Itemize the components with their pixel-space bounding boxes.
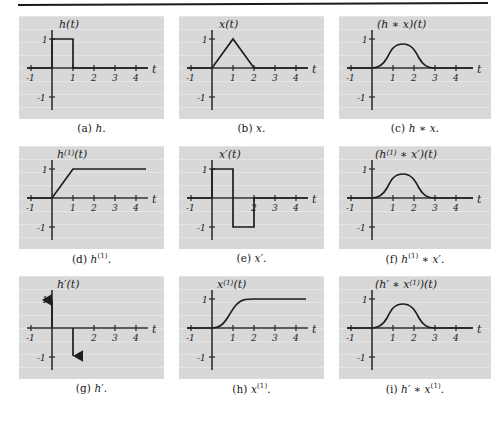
- xtick-label-1: 1: [390, 333, 396, 343]
- plot-h1-conv-xprime: -1 1 2 3 4 1 -1 t (h(1) ∗ x′)(t): [339, 146, 491, 249]
- xtick-label-4: 4: [132, 73, 139, 83]
- x-axis-label: t: [477, 193, 482, 206]
- xtick-label-4: 4: [132, 333, 139, 343]
- subfigure-h: -1 1 2 3 4 1 -1 t x(1)(t) (h) x(1).: [179, 276, 324, 395]
- xtick-label-2: 2: [250, 333, 257, 343]
- xtick-label-2: 2: [90, 203, 97, 213]
- signal-label-hprime: h′(t): [57, 278, 80, 291]
- xtick-label-3: 3: [432, 203, 438, 213]
- caption-a: (a) h.: [19, 122, 164, 134]
- xtick-label-2: 2: [90, 333, 97, 343]
- xtick-label-neg1: -1: [186, 333, 195, 343]
- ytick-label-1: 1: [202, 165, 208, 175]
- plot-hprime-conv-x1: -1 1 2 3 4 1 -1 t (h′ ∗ x(1))(t): [339, 276, 491, 379]
- x-axis-label: t: [312, 323, 317, 336]
- figure-page: -1 1 2 3 4 1 -1 t h(t) (a) h.: [0, 0, 502, 442]
- xtick-label-4: 4: [132, 203, 139, 213]
- plot-panel-x1: -1 1 2 3 4 1 -1 t x(1)(t): [179, 276, 324, 379]
- xtick-label-3: 3: [112, 73, 118, 83]
- plot-panel-h1-conv-xprime: -1 1 2 3 4 1 -1 t (h(1) ∗ x′)(t): [339, 146, 491, 249]
- ytick-label-neg1: -1: [357, 353, 366, 363]
- ytick-label-1: 1: [202, 35, 208, 45]
- xtick-label-3: 3: [432, 73, 438, 83]
- ytick-label-1: 1: [202, 295, 208, 305]
- top-horizontal-rule: [18, 2, 488, 6]
- x-axis-label: t: [152, 63, 157, 76]
- x-axis-label: t: [312, 193, 317, 206]
- signal-label-h-conv-x: (h ∗ x)(t): [377, 18, 426, 31]
- x-axis-label: t: [477, 63, 482, 76]
- ytick-label-neg1: -1: [37, 353, 46, 363]
- plot-h-conv-x: -1 1 2 3 4 1 -1 t (h ∗ x)(t): [339, 16, 491, 119]
- ytick-label-1: 1: [362, 35, 368, 45]
- ytick-label-neg1: -1: [37, 223, 46, 233]
- xtick-label-1: 1: [390, 73, 396, 83]
- plot-hprime: -1 2 3 4 1 -1 t h′(t): [19, 276, 164, 379]
- plot-panel-h: -1 1 2 3 4 1 -1 t h(t): [19, 16, 164, 119]
- plot-panel-x: -1 1 2 3 4 1 -1 t x(t): [179, 16, 324, 119]
- signal-curve-hprime-conv-x1: [347, 304, 473, 328]
- plot-panel-h1: -1 1 2 3 4 1 -1 t h(1)(t): [19, 146, 164, 249]
- x-axis-label: t: [312, 63, 317, 76]
- ytick-label-neg1: -1: [37, 93, 46, 103]
- xtick-label-neg1: -1: [26, 73, 35, 83]
- signal-label-h1-conv-xprime: (h(1) ∗ x′)(t): [375, 148, 437, 161]
- xtick-label-1: 1: [230, 73, 236, 83]
- xtick-label-1: 1: [70, 73, 76, 83]
- ytick-label-neg1: -1: [197, 353, 206, 363]
- ytick-label-1: 1: [362, 165, 368, 175]
- plot-panel-hprime-conv-x1: -1 1 2 3 4 1 -1 t (h′ ∗ x(1))(t): [339, 276, 491, 379]
- subfigure-g: -1 2 3 4 1 -1 t h′(t) (g) h′.: [19, 276, 164, 394]
- xtick-label-4: 4: [292, 73, 299, 83]
- xtick-label-2: 2: [410, 333, 417, 343]
- signal-label-x: x(t): [219, 18, 238, 31]
- xtick-label-2: 2: [410, 73, 417, 83]
- xtick-label-3: 3: [112, 203, 118, 213]
- subfigure-f: -1 1 2 3 4 1 -1 t (h(1) ∗ x′)(t) (f) h(1…: [339, 146, 491, 265]
- x-axis-label: t: [152, 323, 157, 336]
- figure-row-1: -1 1 2 3 4 1 -1 t h(t) (a) h.: [0, 16, 502, 146]
- ytick-label-1: 1: [362, 295, 368, 305]
- signal-label-xprime: x′(t): [219, 148, 241, 161]
- xtick-label-3: 3: [432, 333, 438, 343]
- xtick-label-neg1: -1: [346, 73, 355, 83]
- signal-label-h: h(t): [59, 18, 79, 31]
- xtick-label-neg1: -1: [26, 203, 35, 213]
- ytick-label-neg1: -1: [357, 93, 366, 103]
- signal-label-x1: x(1)(t): [217, 278, 246, 291]
- xtick-label-1: 1: [230, 333, 236, 343]
- plot-x1: -1 1 2 3 4 1 -1 t x(1)(t): [179, 276, 324, 379]
- xtick-label-neg1: -1: [186, 203, 195, 213]
- subfigure-b: -1 1 2 3 4 1 -1 t x(t) (b) x.: [179, 16, 324, 134]
- xtick-label-4: 4: [452, 203, 459, 213]
- xtick-label-3: 3: [112, 333, 118, 343]
- caption-f: (f) h(1) ∗ x′.: [339, 252, 491, 265]
- xtick-label-4: 4: [452, 333, 459, 343]
- caption-d: (d) h(1).: [19, 252, 164, 265]
- xtick-label-1: 1: [70, 203, 76, 213]
- figure-row-3: -1 2 3 4 1 -1 t h′(t) (g) h′.: [0, 276, 502, 406]
- plot-h: -1 1 2 3 4 1 -1 t h(t): [19, 16, 164, 119]
- subfigure-c: -1 1 2 3 4 1 -1 t (h ∗ x)(t) (c) h ∗ x.: [339, 16, 491, 134]
- ytick-label-1: 1: [42, 165, 48, 175]
- xtick-label-3: 3: [272, 333, 278, 343]
- subfigure-e: -1 2 3 4 1 -1 t x′(t) (e) x′.: [179, 146, 324, 264]
- caption-c: (c) h ∗ x.: [339, 122, 491, 134]
- caption-b: (b) x.: [179, 122, 324, 134]
- plot-h1: -1 1 2 3 4 1 -1 t h(1)(t): [19, 146, 164, 249]
- signal-label-h1: h(1)(t): [57, 148, 87, 161]
- plot-panel-h-conv-x: -1 1 2 3 4 1 -1 t (h ∗ x)(t): [339, 16, 491, 119]
- subfigure-a: -1 1 2 3 4 1 -1 t h(t) (a) h.: [19, 16, 164, 134]
- ytick-label-neg1: -1: [197, 93, 206, 103]
- ytick-label-1: 1: [42, 35, 48, 45]
- signal-curve-h-conv-x: [347, 44, 473, 68]
- xtick-label-2: 2: [410, 203, 417, 213]
- signal-label-hprime-conv-x1: (h′ ∗ x(1))(t): [375, 278, 437, 291]
- xtick-label-4: 4: [452, 73, 459, 83]
- ytick-label-neg1: -1: [197, 223, 206, 233]
- xtick-label-1: 1: [390, 203, 396, 213]
- xtick-label-4: 4: [292, 333, 299, 343]
- ytick-label-1: 1: [42, 295, 48, 305]
- caption-i: (i) h′ ∗ x(1).: [339, 382, 491, 395]
- plot-xprime: -1 2 3 4 1 -1 t x′(t): [179, 146, 324, 249]
